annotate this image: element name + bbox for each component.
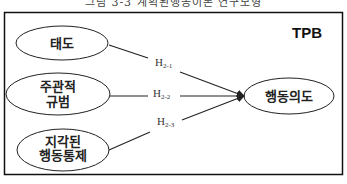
node-perceived-control-line1: 지각된 [45,134,81,149]
node-attitude-label: 태도 [50,36,74,51]
hypothesis-label-h2-3: H2-3 [157,115,175,129]
path-h2-3: H2-3 [109,96,244,150]
node-subjective-norm: 주관적 규범 [6,73,110,115]
path-h2-1: H2-1 [109,45,244,96]
hypothesis-label-h2-2: H2-2 [153,87,171,101]
node-subjective-norm-line1: 주관적 [40,79,76,94]
hypothesis-label-h2-1: H2-1 [155,56,173,70]
node-perceived-control-line2: 행동통제 [39,148,87,163]
node-perceived-control: 지각된 행동통제 [17,129,109,171]
path-h2-2: H2-2 [110,87,244,101]
tpb-diagram: TPB 태도 주관적 규범 지각된 행동통제 행동의도 H2-1 H2-2 H2… [0,0,347,184]
model-tag: TPB [292,24,322,41]
node-attitude: 태도 [16,26,108,60]
node-subjective-norm-line2: 규범 [46,94,70,109]
node-intention: 행동의도 [244,78,334,114]
node-intention-label: 행동의도 [265,89,313,104]
